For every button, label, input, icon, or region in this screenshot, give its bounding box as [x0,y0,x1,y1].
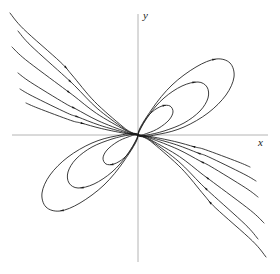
arrowhead-petal-outer-q1 [212,59,216,61]
trajectory-petal-middle-q3 [67,133,138,188]
trajectory-petal-middle-q1 [138,82,209,137]
phase-portrait-figure: y x [0,0,280,274]
arrowhead-open-q4-6 [191,146,195,148]
trajectory-petal-outer-q3 [42,133,138,211]
arrowhead-open-q4-5 [197,153,201,155]
trajectory-petal-outer-q1 [138,59,234,137]
trajectory-open-q4-5 [138,135,256,181]
y-axis-label: y [143,10,148,21]
arrowhead-petal-outer-q3 [60,209,64,211]
trajectory-petal-inner-q3 [103,134,138,164]
arrowhead-open-q2-5 [75,115,79,117]
arrowhead-open-q2-6 [81,122,85,124]
axes-group [12,14,268,262]
trajectory-open-q2-1 [10,13,138,135]
phase-portrait-canvas [0,0,280,274]
trajectory-open-q4-2 [138,135,258,239]
arrowhead-open-q2-4 [72,106,76,109]
trajectory-open-q4-1 [138,135,266,257]
trajectory-petal-inner-q1 [138,105,173,135]
trajectory-open-q2-2 [18,31,138,135]
trajectory-open-q2-5 [20,89,138,135]
arrowhead-open-q4-4 [200,161,204,164]
x-axis-label: x [258,137,263,148]
